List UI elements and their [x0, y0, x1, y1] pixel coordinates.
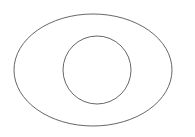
figure-canvas [0, 0, 195, 137]
canvas-background [0, 0, 195, 137]
line-drawing-svg [0, 0, 195, 137]
